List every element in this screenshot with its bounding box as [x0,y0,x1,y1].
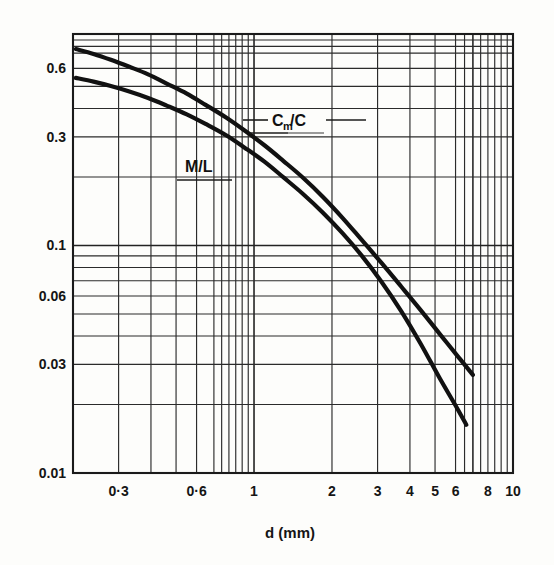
x-tick-label-03: 0·3 [108,483,128,499]
x-tick-label-06: 0·6 [186,483,206,499]
y-tick-label-0-6: 0.6 [47,60,67,76]
annotation-cmc-c2: /C [290,112,306,129]
y-tick-label-0-3: 0.3 [47,129,67,145]
figure-container: C m /C M/L 0.60.30.10.060.030.01 0·30·61… [0,0,554,565]
figure-background [0,0,554,565]
annotation-ml: M/L [185,158,213,175]
x-tick-label-10: 10 [505,483,521,499]
y-tick-label-0-06: 0.06 [39,288,66,304]
x-tick-label-5: 5 [431,483,439,499]
chart-canvas: C m /C M/L 0.60.30.10.060.030.01 0·30·61… [0,0,554,565]
x-tick-label-2: 2 [328,483,336,499]
y-tick-label-0-03: 0.03 [39,356,66,372]
x-tick-label-3: 3 [374,483,382,499]
y-tick-label-0-1: 0.1 [47,237,67,253]
x-tick-label-6: 6 [452,483,460,499]
x-tick-label-8: 8 [484,483,492,499]
x-tick-label-4: 4 [406,483,414,499]
y-tick-label-0-01: 0.01 [39,465,66,481]
x-axis-title: d (mm) [265,524,315,541]
x-tick-label-1: 1 [250,483,258,499]
